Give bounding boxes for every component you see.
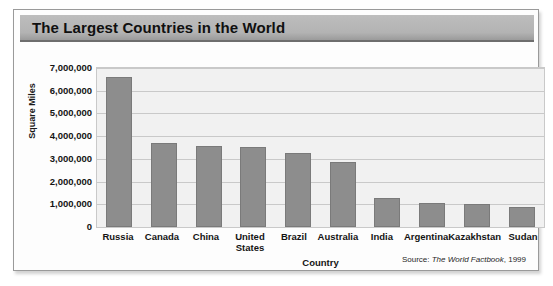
x-axis-tick-label: China [184, 231, 228, 242]
x-axis-tick-label: Canada [140, 231, 184, 242]
bar-china [196, 146, 222, 227]
x-axis-tick-label: India [360, 231, 404, 242]
y-axis-tick-labels: 7,000,0006,000,0005,000,0004,000,0003,00… [32, 66, 92, 234]
chart-card: The Largest Countries in the World Squar… [13, 9, 539, 271]
bar-russia [106, 77, 132, 227]
x-axis-tick-line: United [228, 231, 272, 242]
bar-kazakhstan [464, 204, 490, 227]
x-axis-tick-line: States [228, 242, 272, 253]
x-axis-tick-line: Brazil [272, 231, 316, 242]
y-axis-tick-label: 1,000,000 [50, 198, 92, 209]
y-axis-tick-label: 0 [87, 221, 92, 232]
x-axis-tick-label: Russia [96, 231, 140, 242]
y-axis-tick-label: 5,000,000 [50, 107, 92, 118]
chart-screenshot: The Largest Countries in the World Squar… [0, 0, 553, 286]
x-axis-tick-line: Kazakhstan [448, 231, 501, 242]
y-axis-tick-label: 2,000,000 [50, 175, 92, 186]
x-axis-tick-line: China [184, 231, 228, 242]
y-axis-tick-label: 7,000,000 [50, 62, 92, 73]
bar-sudan [509, 207, 535, 227]
y-axis-tick-label: 6,000,000 [50, 84, 92, 95]
bar-canada [151, 143, 177, 227]
source-note: Source: The World Factbook, 1999 [402, 255, 526, 264]
bar-argentina [419, 203, 445, 227]
bar-india [374, 198, 400, 227]
x-axis-tick-line: Sudan [501, 231, 545, 242]
page-title: The Largest Countries in the World [32, 19, 285, 36]
x-axis-tick-label: Brazil [272, 231, 316, 242]
bar-series [97, 68, 544, 227]
x-axis-tick-label: Sudan [501, 231, 545, 242]
plot-area [96, 67, 545, 228]
bar-united-states [240, 147, 266, 227]
source-prefix: Source: [402, 255, 430, 264]
y-axis-tick-label: 4,000,000 [50, 130, 92, 141]
x-axis-tick-label: Argentina [404, 231, 448, 242]
chart-title-band: The Largest Countries in the World [20, 15, 534, 42]
x-axis-tick-line: Australia [316, 231, 360, 242]
bar-brazil [285, 153, 311, 227]
y-axis-tick-label: 3,000,000 [50, 152, 92, 163]
source-year: , 1999 [504, 255, 526, 264]
x-axis-tick-label: Kazakhstan [448, 231, 501, 242]
bar-australia [330, 162, 356, 227]
x-axis-tick-label: UnitedStates [228, 231, 272, 253]
x-axis-tick-label: Australia [316, 231, 360, 242]
source-publication: The World Factbook [432, 255, 504, 264]
x-axis-tick-line: Russia [96, 231, 140, 242]
gridline [97, 227, 544, 228]
x-axis-tick-line: Argentina [404, 231, 448, 242]
x-axis-tick-line: India [360, 231, 404, 242]
x-axis-tick-line: Canada [140, 231, 184, 242]
